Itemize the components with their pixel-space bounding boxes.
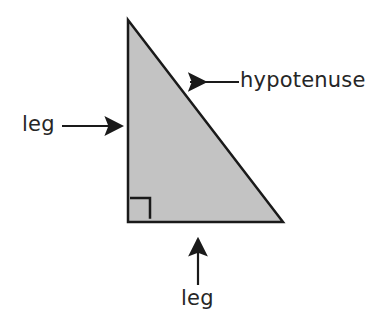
hypotenuse-label: hypotenuse: [240, 70, 366, 91]
vertical-leg-label: leg: [22, 114, 55, 135]
horizontal-leg-label: leg: [181, 288, 214, 309]
right-triangle-shape: [128, 20, 283, 222]
right-triangle-diagram: hypotenuse leg leg: [0, 0, 390, 325]
diagram-canvas: [0, 0, 390, 325]
